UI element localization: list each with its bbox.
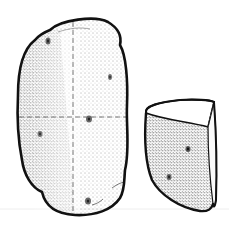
potato-eye [108,74,112,80]
potato-eye [46,38,51,45]
whole-potato [18,19,128,216]
wedge-eye [167,174,172,180]
potato-eye [38,131,43,137]
potato-wedge [145,100,216,212]
potato-eye [86,116,92,123]
potato-illustration [0,0,229,233]
wedge-eye [186,146,191,152]
